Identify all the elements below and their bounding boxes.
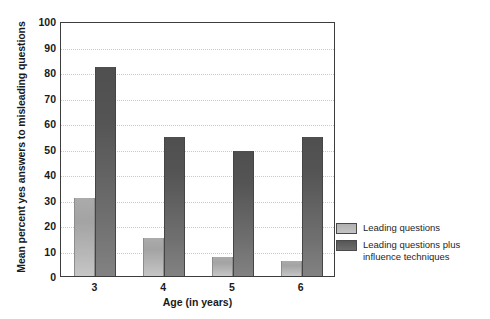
x-tick-label: 3 (74, 280, 114, 294)
bar (143, 238, 164, 276)
bar (233, 151, 254, 276)
bar (302, 137, 323, 276)
bar (281, 261, 302, 276)
bar-chart: Mean percent yes answers to misleading q… (0, 0, 490, 319)
legend-item: Leading questions plus influence techniq… (336, 239, 488, 262)
y-axis-tick-labels: 0102030405060708090100 (30, 22, 56, 277)
bar (212, 257, 233, 276)
legend-swatch (336, 240, 357, 251)
x-tick-label: 4 (143, 280, 183, 294)
bar (164, 137, 185, 276)
chart-legend: Leading questionsLeading questions plus … (336, 222, 488, 267)
x-tick-label: 6 (281, 280, 321, 294)
bars-layer (61, 23, 334, 276)
legend-item: Leading questions (336, 222, 488, 234)
y-tick-label: 90 (30, 42, 56, 53)
y-tick-label: 80 (30, 68, 56, 79)
y-tick-label: 50 (30, 144, 56, 155)
bar (95, 67, 116, 276)
x-axis-title: Age (in years) (60, 296, 335, 308)
legend-swatch (336, 223, 357, 234)
x-tick-label: 5 (212, 280, 252, 294)
y-tick-label: 0 (30, 272, 56, 283)
y-tick-label: 100 (30, 17, 56, 28)
y-tick-label: 30 (30, 195, 56, 206)
legend-label: Leading questions (363, 222, 440, 234)
bar (74, 198, 95, 276)
y-tick-label: 40 (30, 170, 56, 181)
plot-area (60, 22, 335, 277)
y-tick-label: 20 (30, 221, 56, 232)
legend-label: Leading questions plus influence techniq… (363, 239, 460, 262)
x-axis-tick-labels: 3456 (60, 280, 335, 296)
y-tick-label: 70 (30, 93, 56, 104)
y-axis-title: Mean percent yes answers to misleading q… (12, 2, 30, 292)
y-tick-label: 60 (30, 119, 56, 130)
y-tick-label: 10 (30, 246, 56, 257)
